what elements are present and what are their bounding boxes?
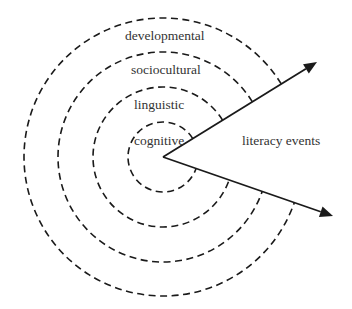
upper-arrow-head-icon (303, 62, 317, 74)
ring-sociocultural (58, 52, 262, 262)
lower-arrow-head-icon (319, 207, 333, 217)
label-developmental: developmental (125, 28, 205, 43)
label-cognitive: cognitive (134, 133, 184, 148)
ring-labels: cognitive linguistic sociocultural devel… (125, 28, 320, 148)
concentric-rings (24, 18, 294, 296)
label-linguistic: linguistic (134, 97, 184, 112)
literacy-diagram: cognitive linguistic sociocultural devel… (0, 0, 352, 309)
ring-developmental (24, 18, 294, 296)
lower-arrow-line (163, 157, 321, 212)
label-sociocultural: sociocultural (131, 62, 201, 77)
label-literacy-events: literacy events (242, 133, 320, 148)
